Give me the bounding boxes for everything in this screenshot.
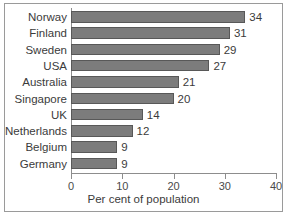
bar-row: Norway34 bbox=[5, 9, 284, 25]
chart-figure-frame: Norway34Finland31Sweden29USA27Australia2… bbox=[4, 3, 283, 212]
bar bbox=[71, 60, 209, 72]
bar-value-label: 21 bbox=[179, 76, 196, 88]
bar-row: Belgium9 bbox=[5, 139, 284, 155]
bar-category-label: Netherlands bbox=[5, 125, 71, 137]
x-axis-tick-label: 0 bbox=[68, 180, 74, 192]
bar-value-label: 12 bbox=[133, 125, 150, 137]
bar-value-label: 34 bbox=[245, 11, 262, 23]
bar bbox=[71, 76, 179, 88]
bar-row: Sweden29 bbox=[5, 42, 284, 58]
bar-row: USA27 bbox=[5, 58, 284, 74]
bar-row: Germany9 bbox=[5, 156, 284, 172]
bar-category-label: Finland bbox=[29, 27, 71, 39]
bar-category-label: USA bbox=[43, 60, 71, 72]
bar bbox=[71, 141, 117, 153]
bar-value-label: 27 bbox=[209, 60, 226, 72]
bar-value-label: 20 bbox=[174, 92, 191, 104]
bar-value-label: 9 bbox=[117, 158, 127, 170]
bar-row: Netherlands12 bbox=[5, 123, 284, 139]
x-axis-tick bbox=[174, 174, 175, 179]
bar-value-label: 14 bbox=[143, 109, 160, 121]
x-axis-title: Per cent of population bbox=[5, 193, 282, 205]
bar-row: Australia21 bbox=[5, 74, 284, 90]
bar bbox=[71, 109, 143, 121]
bar-value-label: 9 bbox=[117, 141, 127, 153]
bar-category-label: Belgium bbox=[25, 141, 71, 153]
bar-category-label: Singapore bbox=[15, 92, 71, 104]
bar bbox=[71, 93, 174, 105]
x-axis-tick bbox=[71, 174, 72, 179]
bar-category-label: Sweden bbox=[25, 43, 71, 55]
x-axis-tick bbox=[276, 174, 277, 179]
bar bbox=[71, 158, 117, 170]
x-axis-tick-label: 40 bbox=[270, 180, 282, 192]
bar bbox=[71, 44, 220, 56]
x-axis-tick bbox=[122, 174, 123, 179]
bar-category-label: Germany bbox=[20, 158, 71, 170]
bar-row: Finland31 bbox=[5, 25, 284, 41]
bar-row: UK14 bbox=[5, 107, 284, 123]
bar-category-label: Norway bbox=[28, 11, 71, 23]
bar-category-label: Australia bbox=[22, 76, 71, 88]
bar-value-label: 31 bbox=[230, 27, 247, 39]
x-axis-tick-label: 30 bbox=[219, 180, 231, 192]
x-axis-tick bbox=[225, 174, 226, 179]
bar-category-label: UK bbox=[51, 109, 71, 121]
x-axis-tick-label: 20 bbox=[167, 180, 179, 192]
x-axis-tick-label: 10 bbox=[116, 180, 128, 192]
bar bbox=[71, 11, 245, 23]
bar-value-label: 29 bbox=[220, 43, 237, 55]
bar-row: Singapore20 bbox=[5, 91, 284, 107]
bar bbox=[71, 27, 230, 39]
bar bbox=[71, 125, 133, 137]
